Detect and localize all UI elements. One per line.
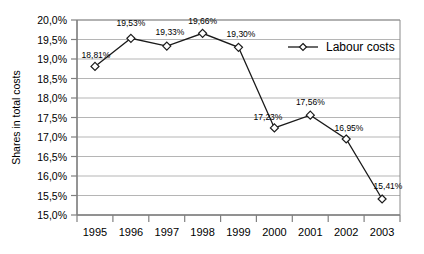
y-tick-label-20-0: 20,0% (37, 14, 67, 26)
y-tick-label-15-5: 15,5% (37, 190, 67, 202)
x-tick-label-1996: 1996 (119, 226, 143, 238)
x-tick-label-2002: 2002 (334, 226, 358, 238)
data-label-2001: 17,56% (296, 97, 325, 107)
data-label-1997: 19,33% (156, 27, 185, 37)
x-tick-label-2003: 2003 (370, 226, 394, 238)
y-tick-label-19-5: 19,5% (37, 34, 67, 46)
data-label-2002: 16,95% (335, 123, 364, 133)
y-tick-label-16-0: 16,0% (37, 170, 67, 182)
y-tick-label-16-5: 16,5% (37, 151, 67, 163)
data-label-2000: 17,23% (254, 112, 283, 122)
data-label-2003: 15,41% (374, 181, 403, 191)
y-axis-title: Shares in total costs (10, 70, 22, 165)
data-label-1999: 19,30% (227, 29, 256, 39)
x-tick-label-1997: 1997 (155, 226, 179, 238)
data-label-1995: 18,81% (82, 50, 111, 60)
x-tick-label-1999: 1999 (226, 226, 250, 238)
x-tick-label-1998: 1998 (190, 226, 214, 238)
data-label-1998: 19,66% (188, 16, 217, 26)
y-tick-label-19-0: 19,0% (37, 53, 67, 65)
data-label-1996: 19,53% (116, 18, 145, 28)
y-tick-label-17-0: 17,0% (37, 131, 67, 143)
x-tick-label-2001: 2001 (298, 226, 322, 238)
x-tick-label-2000: 2000 (262, 226, 286, 238)
x-tick-label-1995: 1995 (83, 226, 107, 238)
y-tick-label-18-5: 18,5% (37, 73, 67, 85)
line-chart: 20,0% 19,5% 19,0% 18,5% 18,0% 17,5% 17,0… (0, 0, 424, 254)
chart-svg: 20,0% 19,5% 19,0% 18,5% 18,0% 17,5% 17,0… (0, 0, 424, 254)
y-tick-label-17-5: 17,5% (37, 112, 67, 124)
legend-label-labour-costs: Labour costs (326, 40, 395, 54)
y-tick-label-18-0: 18,0% (37, 92, 67, 104)
y-tick-label-15-0: 15,0% (37, 209, 67, 221)
